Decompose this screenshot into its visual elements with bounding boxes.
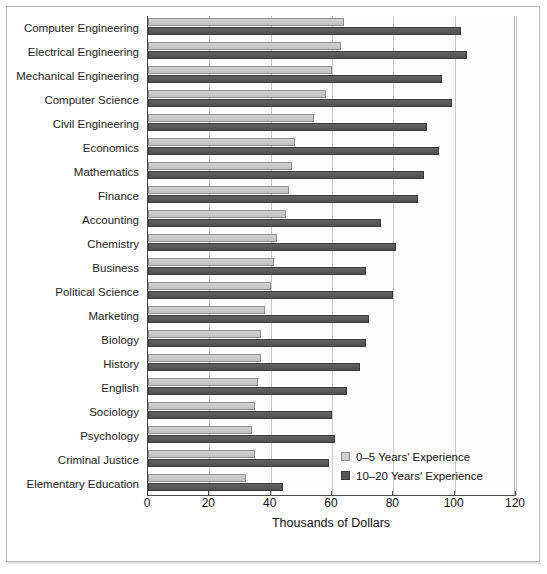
plot-area xyxy=(147,16,515,496)
bar-row xyxy=(148,280,514,304)
category-label: Electrical Engineering xyxy=(28,40,139,64)
bar-experience-0-5 xyxy=(148,186,289,194)
bar-experience-0-5 xyxy=(148,210,286,218)
bar-row xyxy=(148,208,514,232)
bar-experience-10-20 xyxy=(148,435,335,443)
bar-experience-10-20 xyxy=(148,75,442,83)
bar-row xyxy=(148,256,514,280)
tick-label-80: 80 xyxy=(372,496,412,510)
category-axis-labels: Computer EngineeringElectrical Engineeri… xyxy=(0,16,143,496)
chart-legend: 0–5 Years' Experience 10–20 Years' Exper… xyxy=(341,447,516,485)
bar-row xyxy=(148,328,514,352)
category-label: Elementary Education xyxy=(26,472,139,496)
category-label: Criminal Justice xyxy=(58,448,139,472)
bar-row xyxy=(148,88,514,112)
tick-label-40: 40 xyxy=(250,496,290,510)
bar-experience-10-20 xyxy=(148,483,283,491)
bar-experience-0-5 xyxy=(148,402,255,410)
bar-row xyxy=(148,112,514,136)
category-label: Marketing xyxy=(89,304,140,328)
legend-label: 10–20 Years' Experience xyxy=(356,470,483,482)
legend-item-10-20-years: 10–20 Years' Experience xyxy=(341,466,516,485)
category-label: Sociology xyxy=(89,400,139,424)
category-label: Computer Science xyxy=(44,88,139,112)
category-label: Biology xyxy=(101,328,139,352)
bar-row xyxy=(148,304,514,328)
tick-label-120: 120 xyxy=(495,496,535,510)
category-label: Civil Engineering xyxy=(53,112,139,136)
bar-experience-10-20 xyxy=(148,243,396,251)
bar-experience-0-5 xyxy=(148,306,265,314)
bar-experience-0-5 xyxy=(148,114,314,122)
bar-experience-10-20 xyxy=(148,339,366,347)
bar-experience-10-20 xyxy=(148,411,332,419)
bar-experience-10-20 xyxy=(148,267,366,275)
bar-experience-10-20 xyxy=(148,147,439,155)
bar-row xyxy=(148,184,514,208)
bar-row xyxy=(148,40,514,64)
category-label: Mechanical Engineering xyxy=(16,64,139,88)
bar-row xyxy=(148,64,514,88)
bar-experience-0-5 xyxy=(148,330,261,338)
bar-row xyxy=(148,424,514,448)
bar-experience-0-5 xyxy=(148,162,292,170)
value-axis-ticks: 020406080100120 xyxy=(147,496,515,514)
category-label: Computer Engineering xyxy=(24,16,139,40)
bar-row xyxy=(148,400,514,424)
bar-experience-10-20 xyxy=(148,51,467,59)
bar-chart-figure: Computer EngineeringElectrical Engineeri… xyxy=(0,0,547,574)
tick-label-0: 0 xyxy=(127,496,167,510)
category-label: Economics xyxy=(83,136,139,160)
bar-experience-0-5 xyxy=(148,138,295,146)
category-label: Psychology xyxy=(80,424,139,448)
x-axis-title: Thousands of Dollars xyxy=(147,516,515,530)
category-label: Accounting xyxy=(82,208,139,232)
bar-experience-10-20 xyxy=(148,195,418,203)
bar-experience-0-5 xyxy=(148,18,344,26)
bar-experience-10-20 xyxy=(148,459,329,467)
bar-experience-10-20 xyxy=(148,363,360,371)
bar-experience-0-5 xyxy=(148,66,332,74)
bar-rows xyxy=(148,16,514,495)
gridline-120 xyxy=(516,16,517,495)
tick-label-100: 100 xyxy=(434,496,474,510)
bar-experience-10-20 xyxy=(148,27,461,35)
bar-experience-0-5 xyxy=(148,378,258,386)
bar-experience-10-20 xyxy=(148,387,347,395)
bar-row xyxy=(148,376,514,400)
bar-row xyxy=(148,232,514,256)
category-label: Mathematics xyxy=(74,160,139,184)
category-label: Political Science xyxy=(55,280,139,304)
bar-experience-0-5 xyxy=(148,282,271,290)
bar-experience-10-20 xyxy=(148,123,427,131)
bar-experience-0-5 xyxy=(148,450,255,458)
bar-experience-0-5 xyxy=(148,474,246,482)
legend-label: 0–5 Years' Experience xyxy=(356,451,470,463)
bar-row xyxy=(148,136,514,160)
bar-row xyxy=(148,160,514,184)
bar-experience-10-20 xyxy=(148,291,393,299)
category-label: History xyxy=(103,352,139,376)
tick-label-20: 20 xyxy=(188,496,228,510)
bar-experience-10-20 xyxy=(148,171,424,179)
category-label: Business xyxy=(92,256,139,280)
bar-experience-10-20 xyxy=(148,315,369,323)
category-label: Finance xyxy=(98,184,139,208)
bar-experience-0-5 xyxy=(148,42,341,50)
bar-experience-0-5 xyxy=(148,354,261,362)
bar-row xyxy=(148,16,514,40)
bar-experience-10-20 xyxy=(148,99,452,107)
legend-swatch-light-square-icon xyxy=(341,452,350,461)
category-label: English xyxy=(101,376,139,400)
bar-experience-0-5 xyxy=(148,234,277,242)
bar-experience-0-5 xyxy=(148,426,252,434)
bar-row xyxy=(148,352,514,376)
bar-experience-0-5 xyxy=(148,258,274,266)
category-label: Chemistry xyxy=(87,232,139,256)
legend-swatch-dark-square-icon xyxy=(341,471,350,480)
legend-item-0-5-years: 0–5 Years' Experience xyxy=(341,447,516,466)
bar-experience-10-20 xyxy=(148,219,381,227)
tick-label-60: 60 xyxy=(311,496,351,510)
bar-experience-0-5 xyxy=(148,90,326,98)
